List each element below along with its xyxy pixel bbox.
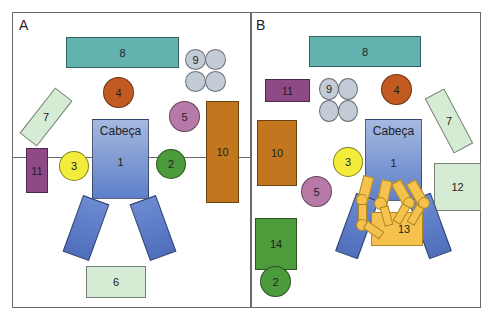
circle-3-b: 3 (333, 147, 363, 177)
panel-b-label: B (256, 17, 265, 33)
block-11-b: 11 (265, 79, 310, 102)
circle-9a-b: 9 (319, 78, 339, 100)
circle-9b-b (338, 78, 358, 100)
block-8-b: 8 (309, 36, 421, 67)
circle-9c-b (319, 100, 339, 122)
block-12-b: 12 (434, 163, 481, 211)
panel-a-border (12, 12, 252, 308)
head-label-b: Cabeça (366, 124, 421, 138)
circle-9d-b (338, 100, 358, 122)
block-14-b: 14 (255, 218, 297, 270)
circle-2-b: 2 (260, 266, 291, 297)
circle-4-b: 4 (381, 74, 412, 105)
circle-5-b: 5 (301, 176, 332, 207)
block-10-b: 10 (257, 120, 297, 186)
